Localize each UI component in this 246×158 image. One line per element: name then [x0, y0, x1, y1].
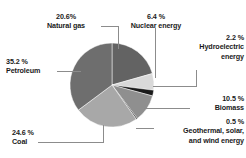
label-coal-percent: 24.6 % [12, 128, 72, 137]
label-geothermal-solar-wind: 0.5 % Geothermal, solar, and wind energy [146, 117, 244, 145]
label-petroleum-name: Petroleum [6, 66, 72, 75]
label-geothermal-name-line1: Geothermal, solar, [146, 126, 244, 135]
label-geothermal-percent: 0.5 % [146, 117, 244, 126]
label-biomass: 10.5 % Biomass [176, 94, 244, 113]
label-natural-gas: 20.6% Natural gas [33, 12, 99, 31]
label-hydro-percent: 2.2 % [176, 33, 244, 42]
label-natural-gas-percent: 20.6% [33, 12, 99, 21]
label-geothermal-name-line2: and wind energy [146, 136, 244, 145]
leader-coal-vertical [103, 125, 104, 142]
label-biomass-percent: 10.5 % [176, 94, 244, 103]
label-biomass-name: Biomass [176, 103, 244, 112]
label-hydro-name-line2: energy [176, 52, 244, 61]
leader-natural-gas-horizontal [101, 26, 119, 27]
label-petroleum-percent: 35.2 % [6, 57, 72, 66]
leader-natural-gas-vertical [118, 26, 119, 49]
leader-hydro-vertical [196, 70, 197, 87]
leader-nuclear-vertical [155, 28, 156, 78]
label-natural-gas-name: Natural gas [33, 21, 99, 30]
leader-hydro-horizontal [153, 86, 196, 87]
label-hydro-name-line1: Hydroelectric [176, 42, 244, 51]
label-nuclear-energy: 6.4 % Nuclear energy [121, 12, 191, 31]
label-coal-name: Coal [12, 137, 72, 146]
label-nuclear-name: Nuclear energy [121, 21, 191, 30]
pie-chart-figure: 20.6% Natural gas 6.4 % Nuclear energy 2… [0, 0, 246, 158]
label-hydroelectric-energy: 2.2 % Hydroelectric energy [176, 33, 244, 61]
label-coal: 24.6 % Coal [12, 128, 72, 147]
label-petroleum: 35.2 % Petroleum [6, 57, 72, 76]
label-nuclear-percent: 6.4 % [121, 12, 191, 21]
